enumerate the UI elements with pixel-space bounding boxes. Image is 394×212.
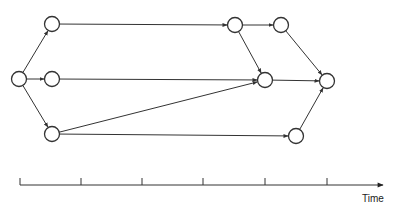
node-start [12, 72, 27, 87]
edge-start-to-top-1 [23, 31, 48, 73]
node-mid-1 [45, 72, 60, 87]
edge-top-3-to-end [286, 31, 322, 75]
edge-top-1-to-top-2 [59, 24, 227, 25]
time-axis [20, 178, 383, 185]
node-top-2 [228, 18, 243, 33]
node-bot-2 [289, 129, 304, 144]
node-mid-2 [258, 73, 273, 88]
node-bot-1 [45, 127, 60, 142]
time-axis-label: Time [362, 193, 384, 204]
edge-bot-1-to-bot-2 [59, 134, 288, 136]
edge-top-2-to-mid-2 [239, 32, 262, 73]
node-top-1 [45, 17, 60, 32]
node-top-3 [274, 18, 289, 33]
edge-start-to-bot-1 [23, 85, 48, 127]
node-end [320, 74, 335, 89]
edge-bot-1-to-mid-2 [59, 82, 257, 132]
edge-bot-2-to-end [300, 88, 323, 129]
edge-mid-1-to-mid-2 [59, 79, 257, 80]
network-diagram [0, 0, 394, 212]
edge-mid-2-to-end [272, 80, 319, 81]
edges-group [23, 24, 323, 136]
